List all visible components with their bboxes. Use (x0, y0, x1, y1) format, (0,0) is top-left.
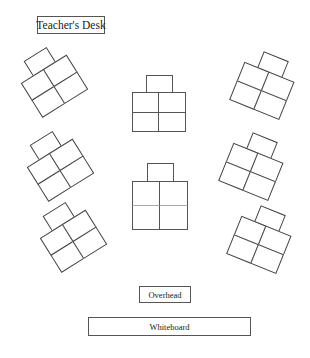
desk-group-right-3 (226, 200, 298, 274)
desk (132, 205, 160, 230)
whiteboard-label: Whiteboard (149, 322, 189, 332)
desk-group-center-2 (132, 163, 188, 230)
teacher-desk-label: Teacher's Desk (36, 19, 105, 31)
desk (132, 92, 159, 113)
desk-group-right-1 (229, 46, 301, 120)
desk (147, 163, 174, 182)
desk (159, 205, 188, 230)
desk (146, 75, 173, 93)
desk (132, 112, 159, 132)
desk-group-left-1 (12, 40, 89, 118)
whiteboard: Whiteboard (88, 317, 251, 336)
teacher-desk: Teacher's Desk (37, 16, 105, 34)
desk (158, 92, 186, 113)
overhead-label: Overhead (148, 290, 181, 300)
desk (158, 112, 186, 132)
desk (132, 181, 160, 206)
desk-group-right-2 (218, 127, 290, 201)
desk-group-left-2 (18, 124, 95, 202)
overhead-projector: Overhead (139, 286, 191, 303)
desk-group-left-3 (31, 195, 108, 273)
desk (159, 181, 188, 206)
classroom-diagram: Teacher's Desk (0, 0, 310, 358)
desk-group-center-1 (132, 75, 186, 132)
